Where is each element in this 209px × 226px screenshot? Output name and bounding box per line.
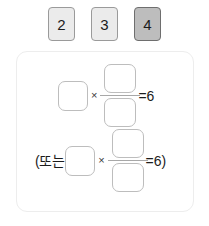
equation-2-result: =6	[146, 154, 162, 168]
equation-2-numerator-input[interactable]	[112, 129, 144, 158]
number-tile-strip: 2 3 4	[0, 0, 209, 48]
number-tile-label: 4	[143, 17, 151, 32]
equation-1-factor-input[interactable]	[58, 81, 88, 111]
equation-1-numerator-input[interactable]	[104, 64, 136, 93]
equation-row-1: × =6	[58, 64, 154, 127]
fraction-bar	[108, 160, 148, 161]
number-tile-label: 3	[100, 17, 108, 32]
fraction-bar	[100, 95, 140, 96]
equation-1-fraction	[100, 64, 140, 127]
number-tile-3[interactable]: 3	[91, 7, 118, 41]
equation-2-prefix: (또는	[35, 154, 64, 168]
equation-2-factor-input[interactable]	[65, 146, 95, 176]
equation-2-suffix: )	[162, 154, 167, 168]
number-tile-2[interactable]: 2	[48, 7, 75, 41]
multiplication-sign: ×	[98, 155, 104, 166]
equation-1-denominator-input[interactable]	[104, 98, 136, 127]
equation-row-2: (또는 × =6 )	[35, 129, 166, 192]
number-tile-4[interactable]: 4	[134, 7, 161, 41]
answer-card: × =6 (또는 × =6 )	[16, 51, 194, 212]
equation-1-result: =6	[138, 89, 154, 103]
multiplication-sign: ×	[91, 90, 97, 101]
equation-2-fraction	[108, 129, 148, 192]
equation-2-denominator-input[interactable]	[112, 163, 144, 192]
number-tile-label: 2	[57, 17, 65, 32]
